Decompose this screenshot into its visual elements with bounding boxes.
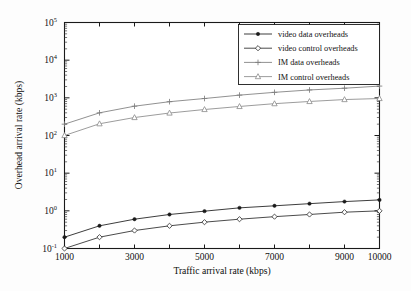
y-tick-label: 101	[44, 166, 57, 178]
data-point-marker	[63, 235, 66, 238]
x-tick-label: 9000	[335, 252, 354, 262]
data-point-marker	[238, 206, 241, 209]
x-axis-tick-labels: 1000300050007000900010000	[55, 252, 392, 262]
x-tick-label: 7000	[265, 252, 284, 262]
data-point-marker	[203, 209, 206, 212]
data-point-marker	[256, 32, 259, 35]
data-point-marker	[378, 198, 381, 201]
x-tick-label: 5000	[195, 252, 214, 262]
legend-label: video control overheads	[278, 44, 358, 53]
y-axis-title: Overhead arrival rate (kbps)	[13, 81, 25, 189]
x-tick-label: 3000	[125, 252, 144, 262]
data-point-marker	[273, 204, 276, 207]
y-tick-label: 102	[44, 129, 57, 141]
legend-label: IM control overheads	[278, 73, 349, 82]
y-tick-label: 103	[44, 91, 57, 103]
chart-legend: video data overheadsvideo control overhe…	[239, 25, 380, 85]
y-tick-label: 104	[44, 53, 58, 65]
data-point-marker	[343, 200, 346, 203]
data-point-marker	[168, 213, 171, 216]
chart-canvas: 10-1100101102103104105 10003000500070009…	[0, 0, 411, 291]
x-axis-title: Traffic arrival rate (kbps)	[173, 265, 270, 277]
y-tick-label: 100	[44, 204, 57, 216]
data-point-marker	[133, 217, 136, 220]
data-point-marker	[308, 202, 311, 205]
data-point-marker	[98, 224, 101, 227]
y-tick-label: 105	[44, 16, 57, 28]
chart-figure: 10-1100101102103104105 10003000500070009…	[0, 0, 411, 291]
legend-label: video data overheads	[278, 30, 348, 39]
legend-label: IM data overheads	[278, 58, 340, 67]
x-tick-label: 1000	[55, 252, 74, 262]
y-axis-tick-labels: 10-1100101102103104105	[42, 16, 58, 254]
x-tick-label: 10000	[368, 252, 392, 262]
